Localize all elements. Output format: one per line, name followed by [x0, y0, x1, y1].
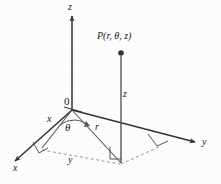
- y-foot-dashed-line: [121, 146, 161, 164]
- diagram-canvas: [0, 0, 221, 184]
- y-axis-label: y: [202, 137, 206, 147]
- point-p-marker: [118, 50, 124, 56]
- x-axis-label: x: [13, 163, 17, 173]
- cylindrical-coordinates-figure: z y x 0 P(r, θ, z) x θ r z y: [0, 0, 221, 184]
- r-segment-line: [72, 110, 121, 163]
- y-axis-line: [72, 110, 195, 142]
- point-p-label: P(r, θ, z): [97, 31, 131, 41]
- origin-label: 0: [64, 96, 70, 107]
- y-dashed-line: [42, 150, 120, 164]
- right-angle-y-icon: [148, 134, 168, 146]
- z-segment-label: z: [123, 89, 127, 99]
- x-axis-line: [15, 110, 72, 161]
- x-projection-label: x: [47, 114, 51, 124]
- z-axis-label: z: [68, 2, 72, 12]
- r-label: r: [95, 122, 99, 132]
- y-dashed-label: y: [68, 155, 72, 165]
- theta-label: θ: [65, 122, 70, 133]
